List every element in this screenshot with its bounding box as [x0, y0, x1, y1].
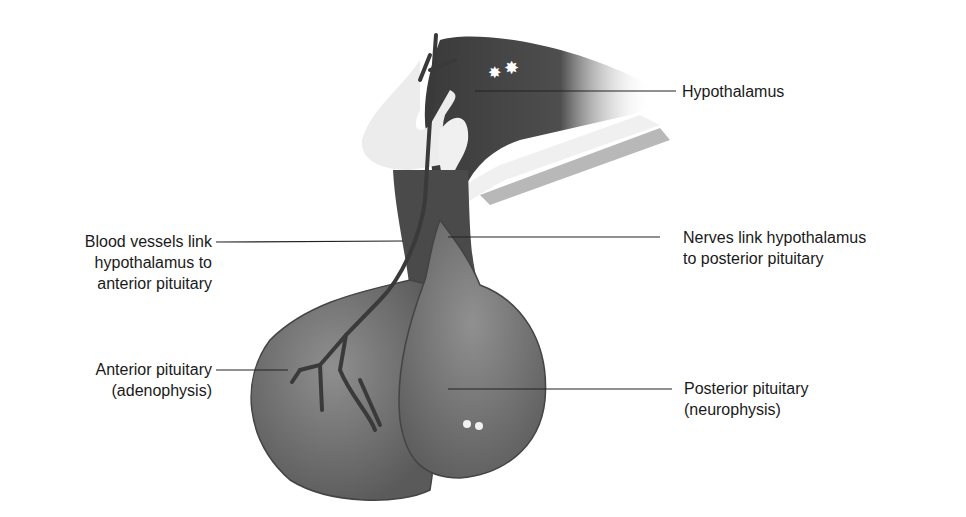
dot-marker: [463, 420, 471, 428]
label-posterior-pituitary: Posterior pituitary (neurophysis): [684, 378, 809, 420]
label-anterior-pituitary: Anterior pituitary (adenophysis): [96, 359, 213, 401]
label-blood-vessels: Blood vessels link hypothalamus to anter…: [85, 231, 212, 294]
label-hypothalamus: Hypothalamus: [682, 81, 784, 102]
label-nerves: Nerves link hypothalamus to posterior pi…: [683, 227, 866, 269]
dot-marker: [475, 422, 483, 430]
neuron-cell-icon: ✸: [504, 58, 519, 78]
neuron-cell-icon: ✸: [488, 64, 501, 81]
